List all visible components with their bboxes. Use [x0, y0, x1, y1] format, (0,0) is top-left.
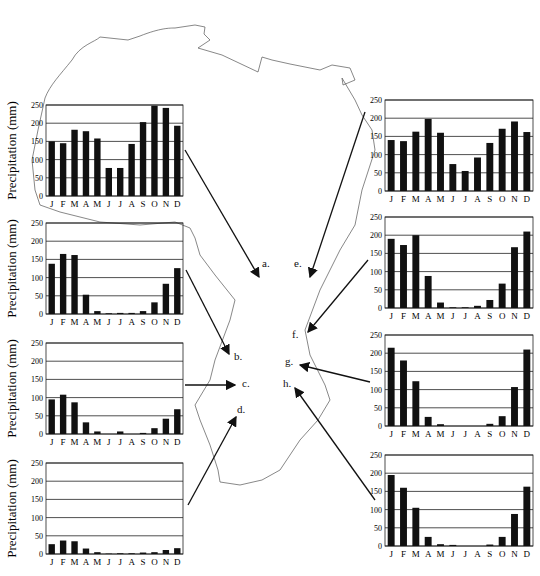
arrow-g [300, 365, 370, 382]
arrow-b [186, 270, 229, 354]
arrow-a [185, 150, 259, 277]
arrow-d [188, 417, 236, 505]
arrow-f [308, 260, 368, 332]
arrow-h [295, 388, 375, 500]
arrows-layer [0, 0, 540, 576]
arrow-e [310, 112, 365, 277]
